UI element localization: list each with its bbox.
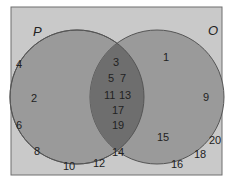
number-6: 6 [16,119,22,131]
number-8: 8 [34,145,40,157]
set-o-label: O [208,23,218,38]
number-20: 20 [209,134,221,146]
set-p-label: P [33,24,42,39]
number-10: 10 [63,160,75,172]
number-16: 16 [171,158,183,170]
number-1: 1 [163,51,169,63]
number-14: 14 [112,146,124,158]
number-4: 4 [16,58,22,70]
number-12: 12 [93,157,105,169]
number-3: 3 [113,56,119,68]
number-9: 9 [203,91,209,103]
number-13: 13 [119,89,131,101]
number-11: 11 [104,89,115,101]
number-18: 18 [194,148,206,160]
number-7: 7 [120,72,126,84]
number-17: 17 [112,104,124,116]
number-19: 19 [112,119,124,131]
venn-diagram: P O 2 3 5 7 11 13 17 19 1 9 15 4 6 8 10 … [0,0,235,189]
number-15: 15 [157,131,169,143]
number-5: 5 [108,72,114,84]
number-2: 2 [31,92,37,104]
